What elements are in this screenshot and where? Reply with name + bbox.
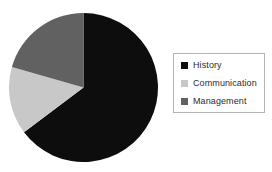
pie-svg: [9, 13, 158, 162]
pie-slices: [9, 13, 158, 162]
legend-swatch-history: [181, 62, 188, 69]
pie-chart-figure: History Communication Management: [0, 0, 272, 172]
legend-item-communication[interactable]: Communication: [181, 78, 257, 88]
legend-swatch-communication: [181, 80, 188, 87]
legend-swatch-management: [181, 98, 188, 105]
legend-label-history: History: [193, 60, 222, 70]
legend-label-management: Management: [193, 96, 247, 106]
chart-legend: History Communication Management: [173, 53, 265, 113]
legend-item-history[interactable]: History: [181, 60, 222, 70]
pie-graphic: [9, 13, 158, 162]
legend-item-management[interactable]: Management: [181, 96, 247, 106]
legend-label-communication: Communication: [193, 78, 257, 88]
